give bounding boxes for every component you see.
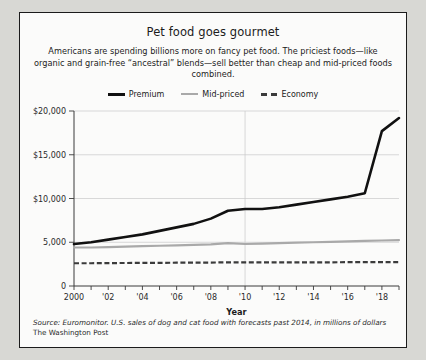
legend-swatch-premium-icon [108,93,125,96]
series-line-economy [74,262,399,263]
chart-title: Pet food goes gourmet [20,25,406,39]
x-axis-label: 2000 [64,293,84,302]
line-chart-svg: 05,000$10,000$15,000$20,0002000'02'04'06… [20,103,407,318]
y-axis-label: $10,000 [33,194,66,203]
legend-item-premium[interactable]: Premium [108,90,165,99]
chart-figure: Pet food goes gourmet Americans are spen… [19,12,407,348]
y-axis-label: $15,000 [33,150,66,159]
publisher-text: The Washington Post [33,328,108,337]
legend-item-economy[interactable]: Economy [261,90,318,99]
legend-item-mid-priced[interactable]: Mid-priced [181,90,244,99]
legend-swatch-mid-priced-icon [181,93,198,95]
plot-area: 05,000$10,000$15,000$20,0002000'02'04'06… [20,103,406,318]
x-axis-label: '04 [136,293,148,302]
x-axis-label: '14 [307,293,319,302]
series-line-premium [74,118,399,244]
legend-swatch-economy-icon [261,93,277,96]
source-note: Source: Euromonitor. U.S. sales of dog a… [33,318,386,338]
chart-subtitle: Americans are spending billions more on … [32,46,394,81]
x-axis-label: '10 [239,293,251,302]
x-axis-title: Year [225,307,247,317]
y-axis-label: 0 [61,282,66,291]
series-line-mid-priced [74,240,399,247]
x-axis-label: '08 [205,293,217,302]
y-axis-label: $20,000 [33,107,66,116]
x-axis-label: '12 [273,293,285,302]
legend-label-premium: Premium [129,90,165,99]
legend-label-economy: Economy [281,90,318,99]
y-axis-label: 5,000 [43,238,66,247]
x-axis-label: '06 [170,293,182,302]
chart-legend: Premium Mid-priced Economy [20,90,406,99]
x-axis-label: '02 [102,293,114,302]
legend-label-mid-priced: Mid-priced [202,90,244,99]
x-axis-label: '18 [376,293,388,302]
source-text: Source: Euromonitor. U.S. sales of dog a… [33,318,386,327]
x-axis-label: '16 [341,293,353,302]
